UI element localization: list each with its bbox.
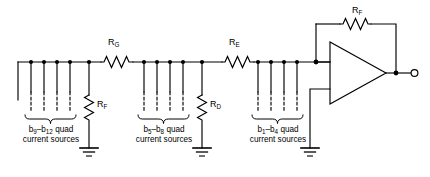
group-b9-b12-line2: current sources [6, 135, 96, 145]
node-dot-rd-shunt [200, 60, 204, 64]
group-b5-b8-qualifier: quad [166, 125, 184, 134]
group-b1-b4-end-sub: 4 [275, 128, 279, 135]
feedback-right-wire [371, 24, 396, 73]
resistor-rf-shunt-label-sub: F [104, 103, 108, 110]
resistor-rf-feedback-label: RF [352, 5, 362, 16]
node-dot-b7 [168, 60, 172, 64]
node-dot-b11 [55, 60, 59, 64]
node-dot-output [394, 71, 399, 76]
brace-group-b1-b4 [252, 115, 303, 124]
group-b9-b12-qualifier: quad [55, 125, 73, 134]
node-dot-b8 [181, 60, 185, 64]
resistor-re-zigzag [222, 57, 254, 68]
group-b9-b12-line1: b9–b12 quad [6, 125, 96, 135]
group-b1-b4-line1: b1–b4 quad [233, 125, 323, 135]
node-dot-b5 [142, 60, 146, 64]
circuit-schematic-svg [0, 0, 430, 177]
node-dot-b3 [282, 60, 286, 64]
resistor-re-label-sub: E [236, 41, 240, 48]
node-dot-rf-shunt [87, 60, 91, 64]
resistor-rg-zigzag [101, 57, 133, 68]
resistor-rf-shunt-label: RF [97, 99, 107, 110]
group-b1-b4-qualifier: quad [280, 125, 298, 134]
output-terminal-circle [411, 70, 418, 77]
brace-group-b9-b12 [25, 115, 76, 124]
node-dot-b4 [295, 60, 299, 64]
resistor-rf-feedback-label-sub: F [359, 9, 363, 16]
resistor-re-label: RE [229, 37, 240, 48]
resistor-rf-shunt-label-main: R [97, 99, 104, 109]
group-b5-b8-end-sub: 8 [161, 128, 165, 135]
node-dot-b10 [42, 60, 46, 64]
resistor-rd-shunt-label: RD [210, 99, 221, 110]
group-b1-b4-caption: b1–b4 quad current sources [233, 125, 323, 144]
group-b1-b4-start-sub: 1 [262, 128, 266, 135]
node-dot-b6 [155, 60, 159, 64]
resistor-rg-label-sub: G [115, 41, 120, 48]
group-b9-b12-caption: b9–b12 quad current sources [6, 125, 96, 144]
resistor-rd-shunt-label-main: R [210, 99, 217, 109]
group-b9-b12-end-sub: 12 [46, 128, 53, 135]
brace-group-b5-b8 [138, 115, 189, 124]
group-b1-b4-line2: current sources [233, 135, 323, 145]
resistor-rg-label-main: R [108, 37, 115, 47]
group-b5-b8-line1: b5–b8 quad [119, 125, 209, 135]
opamp-triangle [330, 42, 386, 104]
circuit-diagram: RG RE RF RD RF b9–b12 quad current sourc… [0, 0, 430, 177]
node-dot-b9 [29, 60, 33, 64]
group-b9-b12-start-sub: 9 [33, 128, 37, 135]
node-dot-b2 [269, 60, 273, 64]
node-dot-summing-junction [314, 60, 319, 65]
node-dot-b12 [68, 60, 72, 64]
resistor-rf-feedback-label-main: R [352, 5, 359, 15]
group-b1-b4-end-prefix: b [270, 125, 275, 134]
group-b5-b8-caption: b5–b8 quad current sources [119, 125, 209, 144]
resistor-rd-shunt-label-sub: D [217, 103, 222, 110]
resistor-rf-feedback-zigzag [340, 19, 371, 30]
resistor-rg-label: RG [108, 37, 119, 48]
group-b5-b8-start-sub: 5 [148, 128, 152, 135]
group-b5-b8-line2: current sources [119, 135, 209, 145]
node-dot-b1 [256, 60, 260, 64]
resistor-re-label-main: R [229, 37, 236, 47]
group-b5-b8-end-prefix: b [156, 125, 161, 134]
